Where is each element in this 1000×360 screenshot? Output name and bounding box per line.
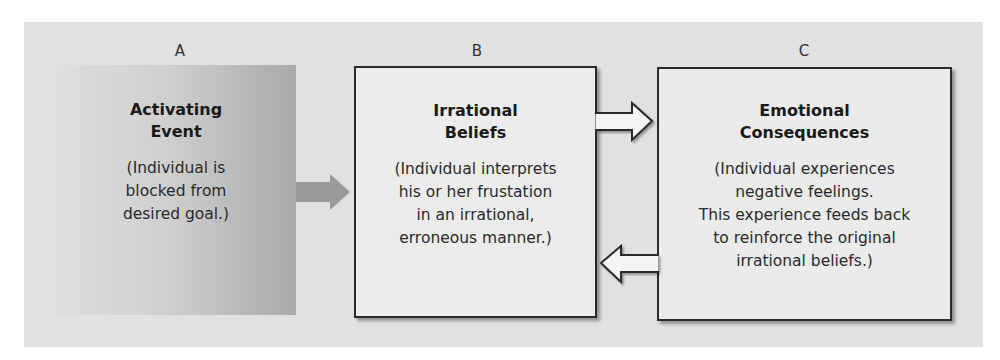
arrow-c-to-b-icon <box>601 246 657 282</box>
arrow-a-to-b-icon <box>296 174 350 210</box>
arrows-layer <box>0 0 1000 360</box>
arrow-b-to-c-icon <box>597 103 652 140</box>
